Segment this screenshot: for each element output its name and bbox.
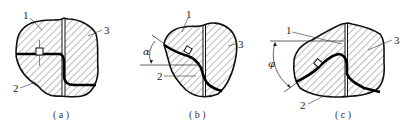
label-part-2: 2 [300,99,306,111]
caption-c: ( c ) [335,109,351,121]
caption-b: ( b ) [189,109,206,121]
label-part-1: 1 [286,24,292,36]
panel-c: φ 1 3 2 ( c ) [268,20,400,121]
angle-arc-alpha [150,41,155,63]
label-part-3: 3 [394,34,400,46]
label-part-3: 3 [104,24,110,36]
caption-a: ( a ) [53,109,69,121]
label-part-3: 3 [238,38,244,50]
panel-a: 1 3 2 ( a ) [10,9,110,121]
label-part-2: 2 [157,70,163,82]
angle-arc-phi [273,43,290,87]
diagram-figure: 1 3 2 ( a ) α 1 3 2 ( b ) [0,0,407,131]
panel-b: α 1 3 2 ( b ) [140,8,244,121]
label-part-1: 1 [23,9,29,21]
angle-alpha-symbol: α [143,46,150,57]
sample-square [36,48,43,55]
label-part-1: 1 [186,8,192,20]
angle-phi-symbol: φ [268,58,275,69]
label-part-2: 2 [13,82,19,94]
region-hatch [10,10,110,110]
